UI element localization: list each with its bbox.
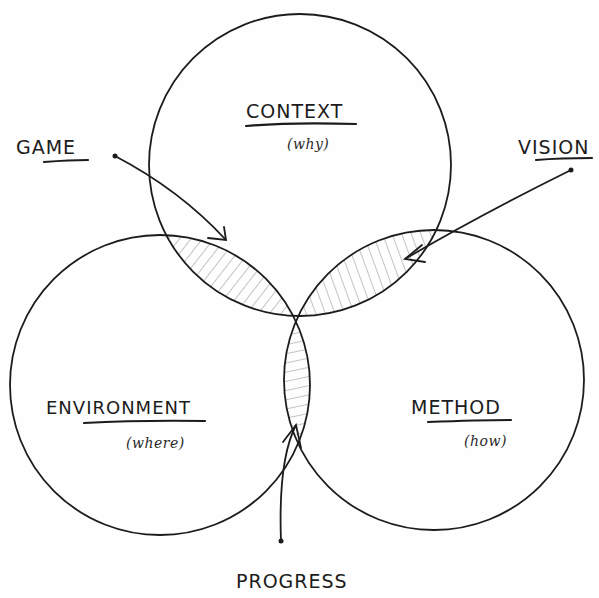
venn-drawing <box>0 0 599 598</box>
game-arrow <box>113 154 227 241</box>
context-underline <box>246 123 356 126</box>
environment-sublabel: (where) <box>126 435 185 451</box>
environment-underline <box>84 421 205 423</box>
method-sublabel: (how) <box>464 433 507 449</box>
progress-label: PROGRESS <box>236 570 348 592</box>
vision-region <box>0 0 599 598</box>
game-region <box>0 0 599 598</box>
venn-diagram: CONTEXT (why) GAME VISION ENVIRONMENT (w… <box>0 0 599 598</box>
environment-label: ENVIRONMENT <box>46 397 191 418</box>
vision-underline <box>536 158 592 160</box>
context-label: CONTEXT <box>246 100 343 122</box>
method-label: METHOD <box>411 396 501 418</box>
game-label: GAME <box>16 136 76 158</box>
game-underline <box>44 160 88 162</box>
vision-label: VISION <box>518 136 589 158</box>
vision-arrow <box>405 168 574 263</box>
method-underline <box>428 420 511 422</box>
progress-region <box>0 0 599 598</box>
context-sublabel: (why) <box>287 136 329 152</box>
